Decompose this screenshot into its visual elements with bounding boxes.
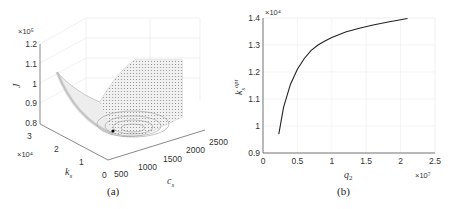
x-tick-labels: 0 0.5 1 1.5 2 2.5 bbox=[261, 156, 442, 166]
svg-text:1.4: 1.4 bbox=[248, 13, 260, 23]
chart-panel-b: 0.9 1 1.1 1.2 1.3 1.4 ×10⁴ ksopt 0 0.5 1… bbox=[230, 0, 454, 209]
line-plot: 0.9 1 1.1 1.2 1.3 1.4 ×10⁴ ksopt 0 0.5 1… bbox=[230, 0, 454, 209]
svg-text:2000: 2000 bbox=[186, 145, 205, 155]
caption-b: (b) bbox=[337, 185, 350, 197]
svg-text:1: 1 bbox=[32, 79, 37, 89]
svg-text:1.2: 1.2 bbox=[25, 39, 37, 49]
x-axis-label: q2 bbox=[344, 169, 353, 182]
x-exponent: ×10⁷ bbox=[415, 171, 431, 180]
surface-mesh bbox=[57, 60, 182, 137]
svg-text:3: 3 bbox=[27, 131, 32, 141]
svg-text:1500: 1500 bbox=[163, 154, 182, 164]
svg-text:1: 1 bbox=[79, 157, 84, 167]
svg-text:2500: 2500 bbox=[209, 137, 228, 147]
svg-text:0: 0 bbox=[261, 156, 266, 166]
svg-text:2: 2 bbox=[398, 156, 403, 166]
caption-a: (a) bbox=[107, 185, 119, 197]
svg-text:1.5: 1.5 bbox=[360, 156, 372, 166]
ks-exponent: ×10⁴ bbox=[17, 150, 33, 159]
minimum-marker bbox=[111, 129, 114, 132]
y-exponent: ×10⁴ bbox=[265, 8, 281, 17]
svg-text:0: 0 bbox=[102, 170, 107, 180]
surface-plot: 1.2 1.1 1 0.9 0.8 ×10⁵ J 3 2 1 0 ×10⁴ ks… bbox=[0, 0, 230, 209]
svg-text:0.8: 0.8 bbox=[25, 118, 37, 128]
chart-panel-a: 1.2 1.1 1 0.9 0.8 ×10⁵ J 3 2 1 0 ×10⁴ ks… bbox=[0, 0, 230, 209]
svg-text:1.3: 1.3 bbox=[248, 40, 260, 50]
svg-text:1000: 1000 bbox=[138, 162, 157, 172]
cs-axis-label: cs bbox=[167, 175, 174, 189]
z-exponent: ×10⁵ bbox=[18, 27, 34, 36]
svg-text:1: 1 bbox=[329, 156, 334, 166]
svg-text:0.9: 0.9 bbox=[25, 98, 37, 108]
svg-text:1.1: 1.1 bbox=[25, 59, 37, 69]
z-tick-labels: 1.2 1.1 1 0.9 0.8 bbox=[25, 39, 37, 128]
z-axis-label: J bbox=[11, 83, 22, 88]
y-axis-label: ksopt bbox=[232, 80, 246, 95]
svg-text:1: 1 bbox=[255, 121, 260, 131]
y-tick-labels: 0.9 1 1.1 1.2 1.3 1.4 bbox=[248, 13, 260, 158]
ks-axis-label: ks bbox=[65, 166, 72, 180]
svg-text:0.5: 0.5 bbox=[291, 156, 303, 166]
svg-text:0.9: 0.9 bbox=[248, 148, 260, 158]
svg-text:2: 2 bbox=[54, 144, 59, 154]
svg-text:1.2: 1.2 bbox=[248, 67, 260, 77]
cs-tick-labels: 500 1000 1500 2000 2500 bbox=[114, 137, 228, 179]
svg-text:2.5: 2.5 bbox=[429, 156, 441, 166]
plot-area bbox=[263, 18, 435, 153]
svg-text:1.1: 1.1 bbox=[248, 94, 260, 104]
svg-text:500: 500 bbox=[114, 169, 128, 179]
